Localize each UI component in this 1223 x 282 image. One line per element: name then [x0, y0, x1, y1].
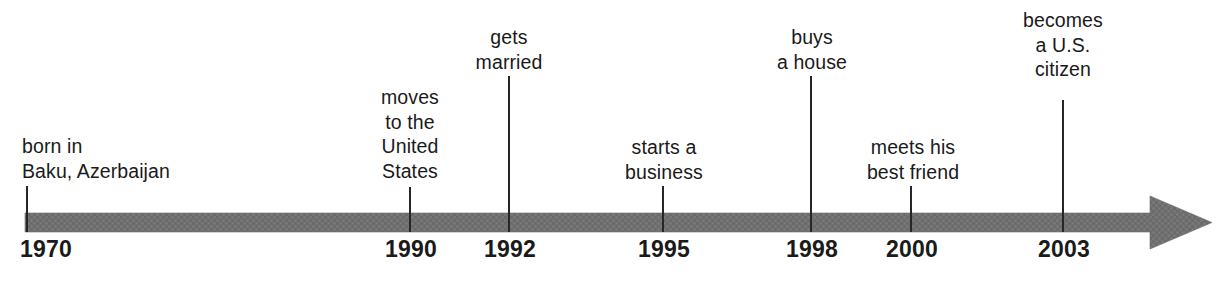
event-label-line: a house: [777, 50, 847, 75]
year-label-1992: 1992: [484, 236, 536, 263]
event-label-2000: meets his best friend: [867, 135, 959, 184]
year-label-1995: 1995: [638, 236, 690, 263]
event-tick-1995: [662, 186, 664, 232]
event-label-line: a U.S.: [1023, 33, 1103, 58]
year-label-1998: 1998: [786, 236, 838, 263]
event-label-1990: moves to the United States: [381, 85, 439, 183]
event-label-1995: starts a business: [625, 135, 703, 184]
year-label-1990: 1990: [385, 236, 437, 263]
event-label-line: becomes: [1023, 8, 1103, 33]
event-label-1970: born in Baku, Azerbaijan: [22, 134, 170, 183]
event-label-line: married: [476, 50, 543, 75]
event-label-line: Baku, Azerbaijan: [22, 159, 170, 184]
event-tick-1992: [508, 76, 510, 232]
event-tick-1990: [409, 187, 411, 232]
timeline-figure: born in Baku, Azerbaijan moves to the Un…: [0, 0, 1223, 282]
year-label-1970: 1970: [20, 236, 72, 263]
event-label-2003: becomes a U.S. citizen: [1023, 8, 1103, 82]
event-label-1992: gets married: [476, 25, 543, 74]
event-label-line: born in: [22, 134, 170, 159]
event-label-line: gets: [476, 25, 543, 50]
event-label-line: buys: [777, 25, 847, 50]
event-label-line: citizen: [1023, 57, 1103, 82]
event-label-line: meets his: [867, 135, 959, 160]
year-label-2003: 2003: [1038, 236, 1090, 263]
event-label-line: business: [625, 160, 703, 185]
event-label-1998: buys a house: [777, 25, 847, 74]
event-label-line: starts a: [625, 135, 703, 160]
event-tick-1970: [26, 186, 28, 232]
event-tick-1998: [810, 76, 812, 232]
event-label-line: to the: [381, 110, 439, 135]
event-label-line: moves: [381, 85, 439, 110]
event-tick-2003: [1062, 100, 1064, 232]
event-label-line: best friend: [867, 160, 959, 185]
event-tick-2000: [910, 186, 912, 232]
event-label-line: States: [381, 159, 439, 184]
year-label-2000: 2000: [886, 236, 938, 263]
event-label-line: United: [381, 134, 439, 159]
